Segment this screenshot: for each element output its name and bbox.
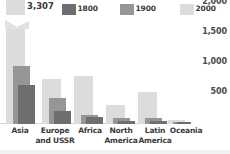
footer-rule (0, 150, 230, 154)
bar-group-north-america (104, 0, 138, 124)
population-bar-chart: 1800 1900 2000 (0, 0, 230, 154)
bar-asia-1800[interactable] (18, 85, 35, 124)
plot-area (0, 0, 188, 124)
bar-latin-america-1800[interactable] (150, 121, 167, 124)
bar-group-europe-ussr (40, 0, 74, 124)
bar-group-oceania (166, 0, 192, 124)
bar-oceania-1800[interactable] (177, 122, 191, 124)
x-axis-labels: Asia Europe and USSR Africa North Americ… (0, 126, 188, 152)
bar-africa-1800[interactable] (86, 117, 103, 124)
x-label-europe-line2: and USSR (33, 136, 77, 146)
x-label-oceania-line1: Oceania (162, 126, 210, 136)
bar-group-africa (72, 0, 106, 124)
y-tick-2000: 2,000 (202, 0, 227, 6)
bar-europe-1800[interactable] (54, 111, 71, 124)
bar-north-america-1800[interactable] (118, 121, 135, 124)
x-label-oceania: Oceania (162, 126, 210, 136)
y-tick-500: 500 (211, 88, 227, 96)
x-label-latin-america-line2: America (134, 136, 176, 146)
bar-group-asia (4, 0, 38, 124)
y-tick-1000: 1,000 (202, 58, 227, 66)
legend-label-2000: 2000 (195, 5, 215, 13)
bar-group-latin-america (136, 0, 170, 124)
asia-value-label: 3,307 (27, 2, 54, 11)
y-tick-1500: 1,500 (202, 28, 227, 36)
